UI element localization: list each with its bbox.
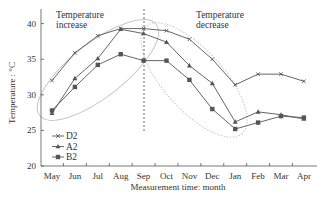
square-marker-icon <box>210 107 214 111</box>
legend-label: D2 <box>66 131 78 141</box>
square-marker-icon <box>302 115 306 119</box>
square-marker-icon <box>233 127 237 131</box>
square-marker-icon <box>73 85 77 89</box>
annot-increase-line1: Temperature <box>56 10 104 20</box>
y-tick-label: 30 <box>27 90 37 100</box>
cross-marker-icon <box>50 79 54 83</box>
x-tick-label: Oct <box>160 171 173 181</box>
y-ticks: 2025303540 <box>27 19 44 171</box>
square-marker-icon <box>164 58 168 62</box>
cross-marker-icon <box>211 57 215 61</box>
legend-item-d2: D2 <box>52 131 78 141</box>
x-tick-label: Jul <box>93 171 104 181</box>
series-line <box>52 29 304 85</box>
x-tick-label: Dec <box>205 171 220 181</box>
x-tick-label: Sep <box>137 171 151 181</box>
square-marker-icon <box>96 63 100 67</box>
square-marker-icon <box>256 120 260 124</box>
legend-label: A2 <box>66 142 78 152</box>
legend-item-a2: A2 <box>52 142 78 152</box>
x-tick-label: Aug <box>113 171 129 181</box>
square-marker-icon <box>50 108 54 112</box>
square-marker-icon <box>141 58 145 62</box>
square-marker-icon <box>119 52 123 56</box>
x-tick-label: Feb <box>251 171 265 181</box>
x-tick-label: Jun <box>69 171 82 181</box>
legend: D2A2B2 <box>52 131 78 162</box>
y-axis-title: Temperature : °C <box>7 62 17 124</box>
square-marker-icon <box>279 114 283 118</box>
legend-label: B2 <box>66 152 77 162</box>
y-tick-label: 35 <box>27 54 37 64</box>
annot-decrease-line1: Temperature <box>196 10 244 20</box>
y-tick-label: 25 <box>27 125 37 135</box>
x-tick-label: May <box>44 171 61 181</box>
x-axis-title: Measurement time: month <box>131 182 226 192</box>
y-tick-label: 40 <box>27 19 37 29</box>
x-tick-label: Apr <box>297 171 311 181</box>
legend-item-b2: B2 <box>52 152 77 162</box>
series-b2 <box>50 52 306 131</box>
annot-increase-line2: increase <box>56 20 87 30</box>
series-d2 <box>50 27 306 87</box>
square-marker-icon <box>56 155 60 159</box>
line-chart: 2025303540 MayJunJulAugSepOctNovDecJanFe… <box>0 0 328 203</box>
x-tick-label: Jan <box>229 171 241 181</box>
annot-decrease-line2: decrease <box>196 20 229 30</box>
y-tick-label: 20 <box>27 161 37 171</box>
triangle-marker-icon <box>256 109 261 113</box>
x-tick-label: Nov <box>182 171 198 181</box>
triangle-marker-icon <box>210 81 215 85</box>
x-tick-label: Mar <box>274 171 289 181</box>
chart-canvas: 2025303540 MayJunJulAugSepOctNovDecJanFe… <box>0 0 328 203</box>
series-layer <box>50 27 307 131</box>
square-marker-icon <box>187 78 191 82</box>
